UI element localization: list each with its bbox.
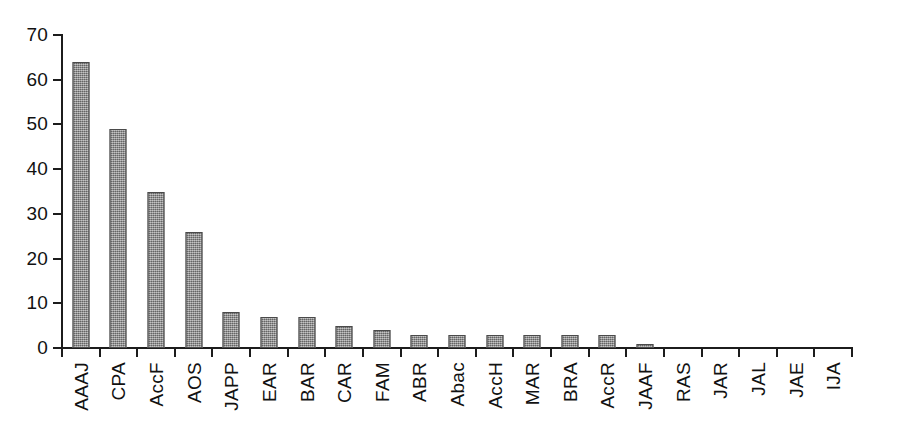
x-axis-tick-label-text: BRA bbox=[560, 362, 579, 402]
bar-slot bbox=[363, 35, 401, 348]
x-axis-tick-label-text: FAM bbox=[372, 362, 391, 402]
x-axis-tick-label-text: ABR bbox=[410, 362, 429, 402]
bar bbox=[411, 335, 428, 348]
bar-chart: 010203040506070 AAAJCPAAccFAOSJAPPEARBAR… bbox=[0, 0, 904, 442]
x-axis-tick-label-text: JAAF bbox=[636, 362, 655, 410]
bar bbox=[110, 129, 127, 348]
y-axis-tick-label: 10 bbox=[4, 293, 48, 312]
y-axis-tick-label: 0 bbox=[4, 338, 48, 357]
bar bbox=[599, 335, 616, 348]
x-axis-tick bbox=[512, 348, 514, 357]
x-axis-tick bbox=[625, 348, 627, 357]
x-axis-tick-label-text: AOS bbox=[184, 362, 203, 403]
bar-slot bbox=[626, 35, 664, 348]
y-axis-tick bbox=[53, 302, 62, 304]
x-axis-tick bbox=[475, 348, 477, 357]
bar-slot bbox=[325, 35, 363, 348]
x-axis-tick-label-text: AAAJ bbox=[71, 362, 90, 411]
y-axis-tick bbox=[53, 123, 62, 125]
bar bbox=[486, 335, 503, 348]
y-axis-tick-label: 70 bbox=[4, 25, 48, 44]
x-axis-tick-label-text: MAR bbox=[523, 362, 542, 405]
x-axis-tick-label-text: JAR bbox=[711, 362, 730, 399]
y-axis-tick-label: 50 bbox=[4, 114, 48, 133]
x-axis-tick-label-text: CPA bbox=[109, 362, 128, 401]
x-axis-tick-label-text: AccR bbox=[598, 362, 617, 409]
x-axis-tick bbox=[324, 348, 326, 357]
bar-slot bbox=[702, 35, 740, 348]
bar bbox=[561, 335, 578, 348]
bar bbox=[148, 192, 165, 349]
x-axis-tick-label-text: JAL bbox=[748, 362, 767, 396]
x-axis-tick bbox=[813, 348, 815, 357]
x-axis-tick-label-text: BAR bbox=[297, 362, 316, 402]
y-axis-tick bbox=[53, 79, 62, 81]
y-axis-tick-label: 20 bbox=[4, 249, 48, 268]
plot-area bbox=[62, 35, 852, 348]
y-axis-tick bbox=[53, 34, 62, 36]
bar-series bbox=[62, 35, 852, 348]
x-axis-tick-label-text: CAR bbox=[335, 362, 354, 403]
x-axis-tick-label-text: AccF bbox=[147, 362, 166, 406]
y-axis-tick-label: 30 bbox=[4, 204, 48, 223]
x-axis-tick bbox=[249, 348, 251, 357]
x-axis-tick-label-text: Abac bbox=[448, 362, 467, 407]
bar bbox=[336, 326, 353, 348]
x-axis-tick bbox=[136, 348, 138, 357]
x-axis-tick bbox=[663, 348, 665, 357]
bar bbox=[260, 317, 277, 348]
x-axis-tick-label-text: JAE bbox=[786, 362, 805, 398]
bar bbox=[373, 330, 390, 348]
x-axis-tick bbox=[211, 348, 213, 357]
x-axis-tick-label-text: RAS bbox=[673, 362, 692, 402]
bar-slot bbox=[401, 35, 439, 348]
x-axis-tick-label-text: JAPP bbox=[222, 362, 241, 411]
x-axis-tick bbox=[851, 348, 853, 357]
x-axis-tick bbox=[99, 348, 101, 357]
x-axis-tick bbox=[400, 348, 402, 357]
bar-slot bbox=[175, 35, 213, 348]
bar-slot bbox=[664, 35, 702, 348]
bar bbox=[72, 62, 89, 348]
y-axis-tick bbox=[53, 258, 62, 260]
bar bbox=[637, 344, 654, 348]
y-axis-tick-label: 40 bbox=[4, 159, 48, 178]
x-axis-tick bbox=[738, 348, 740, 357]
bar-slot bbox=[100, 35, 138, 348]
x-axis-tick bbox=[550, 348, 552, 357]
bar-slot bbox=[62, 35, 100, 348]
bar-slot bbox=[814, 35, 852, 348]
bar bbox=[298, 317, 315, 348]
bar-slot bbox=[212, 35, 250, 348]
x-axis-tick-label-text: IJA bbox=[824, 362, 843, 390]
bar-slot bbox=[739, 35, 777, 348]
y-axis-tick bbox=[53, 213, 62, 215]
x-axis-tick bbox=[174, 348, 176, 357]
x-axis-tick bbox=[588, 348, 590, 357]
x-axis-tick-label-text: AccH bbox=[485, 362, 504, 409]
x-axis-tick-label-text: EAR bbox=[259, 362, 278, 402]
bar bbox=[448, 335, 465, 348]
bar bbox=[185, 232, 202, 348]
y-axis-tick-label: 60 bbox=[4, 70, 48, 89]
bar-slot bbox=[777, 35, 815, 348]
bar-slot bbox=[513, 35, 551, 348]
x-axis-tick bbox=[776, 348, 778, 357]
bar-slot bbox=[476, 35, 514, 348]
x-axis-tick bbox=[287, 348, 289, 357]
bar-slot bbox=[589, 35, 627, 348]
x-axis-tick bbox=[362, 348, 364, 357]
bar-slot bbox=[250, 35, 288, 348]
x-axis-tick bbox=[701, 348, 703, 357]
bar-slot bbox=[137, 35, 175, 348]
bar-slot bbox=[438, 35, 476, 348]
bar-slot bbox=[551, 35, 589, 348]
bar bbox=[223, 312, 240, 348]
bar bbox=[524, 335, 541, 348]
bar-slot bbox=[288, 35, 326, 348]
x-axis-tick bbox=[437, 348, 439, 357]
y-axis-tick bbox=[53, 168, 62, 170]
x-axis-tick bbox=[61, 348, 63, 357]
